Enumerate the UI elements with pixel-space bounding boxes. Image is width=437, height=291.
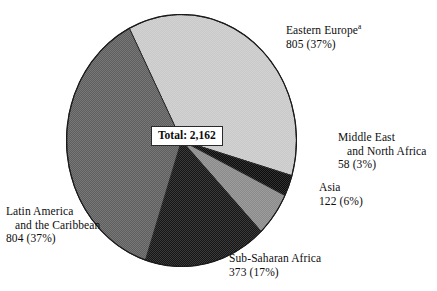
slice-label-latin-america-line2: and the Caribbean [6,219,100,233]
slice-label-subsaharan-africa: Sub-Saharan Africa 373 (17%) [229,252,321,279]
slice-label-subsaharan-africa-name: Sub-Saharan Africa [229,252,321,264]
slice-label-asia-value: 122 (6%) [319,195,363,209]
slice-label-subsaharan-africa-value: 373 (17%) [229,266,321,280]
slice-label-eastern-europe-name: Eastern Europe [286,24,358,36]
slice-label-middle-east: Middle East and North Africa 58 (3%) [338,131,427,172]
slice-label-latin-america: Latin America and the Caribbean 804 (37%… [6,205,100,246]
slice-label-asia: Asia 122 (6%) [319,181,363,208]
slice-label-eastern-europe-superscript: a [358,22,361,31]
slice-label-eastern-europe: Eastern Europea 805 (37%) [286,24,361,51]
pie-chart-figure: Eastern Europea 805 (37%) Middle East an… [0,0,437,291]
slice-label-middle-east-line2: and North Africa [338,145,427,159]
slice-label-latin-america-line1: Latin America [6,205,73,217]
total-callout: Total: 2,162 [151,126,223,146]
slice-label-asia-name: Asia [319,181,340,193]
total-callout-text: Total: 2,162 [158,129,216,141]
slice-label-middle-east-line1: Middle East [338,131,395,143]
slice-label-eastern-europe-value: 805 (37%) [286,38,361,52]
slice-label-latin-america-value: 804 (37%) [6,232,100,246]
slice-label-middle-east-value: 58 (3%) [338,158,427,172]
